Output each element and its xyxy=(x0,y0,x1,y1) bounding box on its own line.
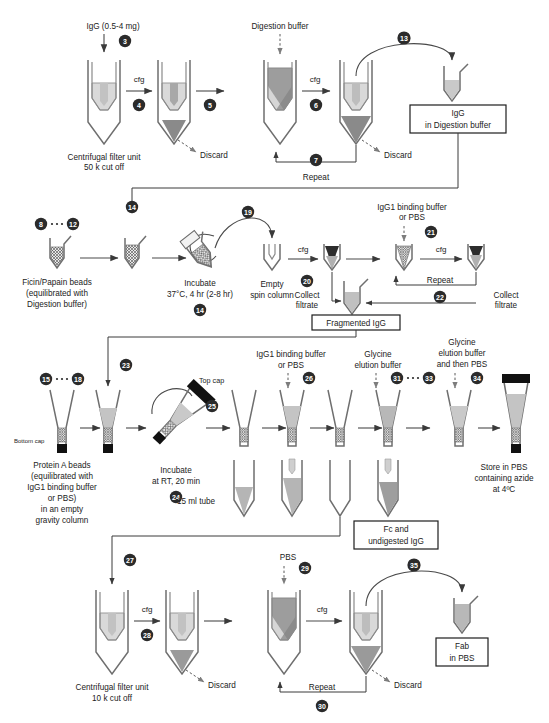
svg-text:Collect: Collect xyxy=(493,291,519,300)
svg-text:12: 12 xyxy=(69,221,77,228)
row1-reagent-digestion-buffer: Digestion buffer xyxy=(251,22,308,54)
svg-text:35: 35 xyxy=(410,562,418,569)
row4-product-tube xyxy=(454,596,478,633)
svg-text:Protein A beads: Protein A beads xyxy=(33,461,90,470)
svg-text:in PBS: in PBS xyxy=(449,654,475,663)
row4-product-box: Fab in PBS xyxy=(436,638,488,666)
svg-text:8: 8 xyxy=(39,221,43,228)
svg-text:PBS: PBS xyxy=(280,553,297,562)
svg-text:Collect: Collect xyxy=(294,291,320,300)
svg-text:19: 19 xyxy=(244,209,252,216)
svg-text:Fc and: Fc and xyxy=(383,525,408,534)
svg-text:or PBS: or PBS xyxy=(278,361,304,370)
svg-text:15 ml tube: 15 ml tube xyxy=(177,497,216,506)
row3-product-box: Fc and undigested IgG xyxy=(354,521,438,549)
step-badge-15-18: 15 18 xyxy=(40,373,84,385)
gravity-column-6 xyxy=(376,390,400,446)
svg-text:Incubate: Incubate xyxy=(160,466,192,475)
svg-text:13: 13 xyxy=(400,35,408,42)
connector-row1-to-row2 xyxy=(132,133,458,213)
svg-text:18: 18 xyxy=(74,376,82,383)
svg-text:15: 15 xyxy=(42,376,50,383)
svg-text:in Digestion buffer: in Digestion buffer xyxy=(425,121,491,130)
spin-column-wash xyxy=(396,244,412,270)
svg-text:Centrifugal filter unit: Centrifugal filter unit xyxy=(76,683,150,692)
svg-text:filtrate: filtrate xyxy=(495,301,518,310)
svg-text:at RT, 20 min: at RT, 20 min xyxy=(152,477,201,486)
fragmented-igg-tube xyxy=(332,272,476,314)
svg-text:Fab: Fab xyxy=(455,642,470,651)
svg-text:50 k cut off: 50 k cut off xyxy=(84,163,125,172)
svg-text:filtrate: filtrate xyxy=(296,301,319,310)
svg-text:Top cap: Top cap xyxy=(199,376,224,385)
row2-repeat-loop: Repeat 22 xyxy=(396,272,476,303)
svg-text:IgG1 binding buffer: IgG1 binding buffer xyxy=(256,350,326,359)
svg-text:cfg: cfg xyxy=(134,75,145,84)
svg-text:Incubate: Incubate xyxy=(184,279,216,288)
svg-text:25: 25 xyxy=(208,403,216,410)
svg-text:4: 4 xyxy=(137,102,141,109)
step-badge-27: 27 xyxy=(124,554,136,566)
svg-text:spin column: spin column xyxy=(250,291,294,300)
row3-reagent-glycine-then-pbs: Glycine elution buffer and then PBS 34 xyxy=(437,338,488,388)
centrifugal-filter-unit-2: Discard xyxy=(158,60,228,160)
collection-tube-15ml-4 xyxy=(378,459,398,516)
empty-spin-column: Empty spin column xyxy=(250,244,294,300)
row1-transfer-13: 13 xyxy=(356,31,452,76)
svg-text:or PBS): or PBS) xyxy=(48,494,77,503)
step-badge-3: 3 xyxy=(119,35,131,47)
svg-text:27: 27 xyxy=(126,557,134,564)
incubation-rotator: Incubate 37°C, 4 hr (2-8 hr) 14 xyxy=(167,227,233,316)
spin-column-final xyxy=(468,244,484,270)
row2-collect-filtrate-2: Collect filtrate xyxy=(493,291,519,310)
svg-text:cfg: cfg xyxy=(436,245,447,254)
centrifugal-filter-unit-10k-1: Centrifugal filter unit 10 k cut off xyxy=(76,590,150,703)
step-badge-20: 20 Collect filtrate xyxy=(294,275,320,310)
svg-text:IgG (0.5-4 mg): IgG (0.5-4 mg) xyxy=(86,22,140,31)
svg-text:Discard: Discard xyxy=(200,151,228,160)
row4-arrow-cfg-28: cfg 28 xyxy=(134,605,160,641)
svg-text:IgG1 binding buffer: IgG1 binding buffer xyxy=(377,203,447,212)
svg-text:14: 14 xyxy=(128,204,136,211)
step-badge-8-12: 8 12 xyxy=(35,218,79,230)
row1-arrow-cfg-6: cfg 6 xyxy=(302,75,330,111)
svg-text:Ficin/Papain beads: Ficin/Papain beads xyxy=(22,278,92,287)
svg-text:7: 7 xyxy=(314,157,318,164)
svg-text:at 4ºC: at 4ºC xyxy=(493,485,516,494)
svg-text:Glycine: Glycine xyxy=(364,350,392,359)
svg-text:IgG: IgG xyxy=(451,109,464,118)
row3-reagent-glycine-elution: Glycine elution buffer 31 33 xyxy=(354,350,435,388)
svg-text:21: 21 xyxy=(427,229,435,236)
svg-text:(equilibrated with: (equilibrated with xyxy=(26,289,88,298)
gravity-column-3 xyxy=(232,390,256,446)
svg-text:30: 30 xyxy=(318,703,326,710)
centrifugal-filter-unit-10k-4: Discard xyxy=(350,590,422,690)
svg-text:Digestion buffer): Digestion buffer) xyxy=(27,300,87,309)
svg-text:29: 29 xyxy=(301,565,309,572)
centrifugal-filter-unit-1: Centrifugal filter unit 50 k cut off xyxy=(68,60,142,172)
digestion-reaction-tube xyxy=(125,236,146,268)
svg-text:Discard: Discard xyxy=(394,681,422,690)
svg-text:elution buffer: elution buffer xyxy=(438,349,485,358)
row1-arrow-cfg-4: cfg 4 xyxy=(126,75,152,111)
svg-text:Digestion buffer: Digestion buffer xyxy=(251,22,308,31)
centrifugal-filter-unit-10k-2: Discard xyxy=(166,590,236,690)
svg-text:elution buffer: elution buffer xyxy=(354,361,401,370)
svg-text:31: 31 xyxy=(393,375,401,382)
diagram-canvas: IgG (0.5-4 mg) 3 Centrifugal filter unit… xyxy=(0,0,549,723)
step-badge-14a: 14 xyxy=(126,201,138,213)
svg-text:cfg: cfg xyxy=(142,605,153,614)
svg-text:3: 3 xyxy=(123,38,127,45)
row1-repeat-loop: 7 Repeat xyxy=(276,145,356,182)
incubation-column-rt: Top cap Incubate at RT, 20 min 24 xyxy=(145,376,224,503)
step-badge-23: 23 xyxy=(120,359,132,371)
row4-reagent-pbs: PBS 29 xyxy=(280,553,311,584)
svg-text:Discard: Discard xyxy=(208,681,236,690)
svg-text:14: 14 xyxy=(196,307,204,314)
gravity-column-4 xyxy=(280,390,304,446)
row2-product-box: Fragmented IgG xyxy=(312,315,400,330)
svg-text:or PBS: or PBS xyxy=(399,213,425,222)
svg-text:cfg: cfg xyxy=(298,245,309,254)
svg-text:Empty: Empty xyxy=(260,280,284,289)
svg-text:Centrifugal filter unit: Centrifugal filter unit xyxy=(68,153,142,162)
